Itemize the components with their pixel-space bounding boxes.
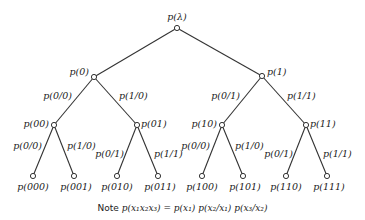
node-01 [134, 122, 139, 127]
edge-labels: p(0/0) p(1/0) p(0/1) p(1/1) p(0/0) p(1/0… [13, 90, 352, 159]
node-110 [283, 173, 288, 178]
label-110: p(110) [270, 181, 302, 192]
edge-label-10-101: p(1/0) [235, 140, 264, 151]
label-root: p(λ) [167, 11, 187, 22]
node-011 [155, 173, 160, 178]
edge-label-00-001: p(1/0) [67, 140, 96, 151]
label-00: p(00) [23, 118, 49, 129]
node-001 [71, 173, 76, 178]
label-10: p(10) [191, 118, 217, 129]
note-caption: Note p(x₁x₂x₃) = p(x₁) p(x₂/x₁) p(x₃/x₂) [0, 203, 365, 213]
edge-0-00 [54, 77, 94, 125]
label-111: p(111) [313, 181, 345, 192]
label-0: p(0) [69, 66, 89, 77]
label-1: p(1) [267, 66, 287, 77]
label-010: p(010) [101, 181, 133, 192]
edge-label-0-01: p(1/0) [119, 90, 148, 101]
node-11 [303, 122, 308, 127]
node-010 [114, 173, 119, 178]
label-100: p(100) [186, 181, 218, 192]
node-101 [240, 173, 245, 178]
edge-label-00-000: p(0/0) [13, 140, 42, 151]
label-01: p(01) [141, 118, 167, 129]
edge-label-1-10: p(0/1) [211, 90, 240, 101]
edge-label-10-100: p(0/0) [181, 140, 210, 151]
edge-label-11-110: p(0/1) [264, 148, 293, 159]
edge-label-01-010: p(0/1) [95, 148, 124, 159]
note-formula: p(x₁x₂x₃) = p(x₁) p(x₂/x₁) p(x₃/x₂) [122, 203, 268, 213]
node-100 [199, 173, 204, 178]
node-111 [324, 173, 329, 178]
label-11: p(11) [310, 118, 336, 129]
probability-tree-diagram: p(λ) p(0) p(1) p(00) p(01) p(10) p(11) p… [0, 0, 365, 220]
edge-label-11-111: p(1/1) [323, 148, 352, 159]
edge-root-1 [177, 28, 262, 76]
node-root [174, 25, 179, 30]
note-prefix: Note [98, 203, 122, 213]
edge-label-1-11: p(1/1) [287, 90, 316, 101]
edge-root-0 [94, 28, 177, 77]
edge-0-01 [94, 77, 137, 125]
label-000: p(000) [17, 181, 49, 192]
edge-label-0-00: p(0/0) [43, 90, 72, 101]
edge-label-01-011: p(1/1) [154, 148, 183, 159]
label-001: p(001) [60, 181, 92, 192]
node-labels: p(λ) p(0) p(1) p(00) p(01) p(10) p(11) p… [17, 11, 345, 192]
label-011: p(011) [144, 181, 176, 192]
node-000 [30, 173, 35, 178]
label-101: p(101) [229, 181, 261, 192]
node-1 [259, 73, 264, 78]
node-00 [51, 122, 56, 127]
node-10 [219, 122, 224, 127]
node-0 [91, 74, 96, 79]
